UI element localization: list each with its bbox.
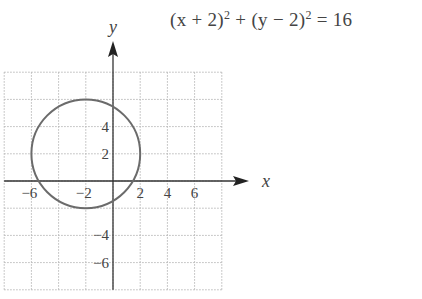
y-tick-label: 4	[102, 119, 110, 135]
x-tick-label: −6	[21, 185, 37, 201]
y-tick-label: −6	[93, 255, 109, 271]
x-tick-label: 2	[136, 185, 144, 201]
x-axis-label: x	[261, 171, 270, 191]
x-tick-label: 4	[164, 185, 172, 201]
y-tick-label: 2	[102, 146, 110, 162]
x-tick-label: −2	[76, 185, 92, 201]
y-tick-label: −4	[93, 227, 109, 243]
x-tick-label: 6	[191, 185, 199, 201]
coordinate-plane: −6−224642−4−6xy	[0, 0, 422, 299]
y-axis-label: y	[107, 17, 117, 37]
